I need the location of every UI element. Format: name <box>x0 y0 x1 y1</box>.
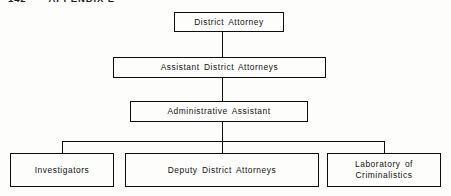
node-label-laboratory-of-criminalistics: Laboratory of Criminalistics <box>355 159 413 181</box>
node-label-district-attorney: District Attorney <box>194 17 264 28</box>
organizational-chart: District Attorney Assistant District Att… <box>0 0 451 196</box>
node-deputy-district-attorneys: Deputy District Attorneys <box>125 153 319 187</box>
node-label-deputy-district-attorneys: Deputy District Attorneys <box>168 165 276 176</box>
node-investigators: Investigators <box>10 153 114 187</box>
node-district-attorney: District Attorney <box>174 12 284 32</box>
node-label-administrative-assistant: Administrative Assistant <box>167 106 270 117</box>
connector-horizontal-bus <box>62 141 385 142</box>
connector-bus-to-deputy-das <box>222 141 223 153</box>
node-label-investigators: Investigators <box>35 165 90 176</box>
connector-admin-assistant-to-bus <box>222 122 223 141</box>
node-administrative-assistant: Administrative Assistant <box>130 101 308 122</box>
connector-da-to-assistant-das <box>222 32 223 57</box>
scanned-page: 142APPENDIX E District Attorney Assistan… <box>0 0 451 196</box>
connector-bus-to-investigators <box>62 141 63 153</box>
node-laboratory-of-criminalistics: Laboratory of Criminalistics <box>327 153 441 187</box>
node-assistant-district-attorneys: Assistant District Attorneys <box>113 57 326 78</box>
connector-bus-to-laboratory <box>384 141 385 153</box>
node-label-assistant-district-attorneys: Assistant District Attorneys <box>161 62 279 73</box>
connector-assistant-das-to-admin-assistant <box>222 78 223 101</box>
